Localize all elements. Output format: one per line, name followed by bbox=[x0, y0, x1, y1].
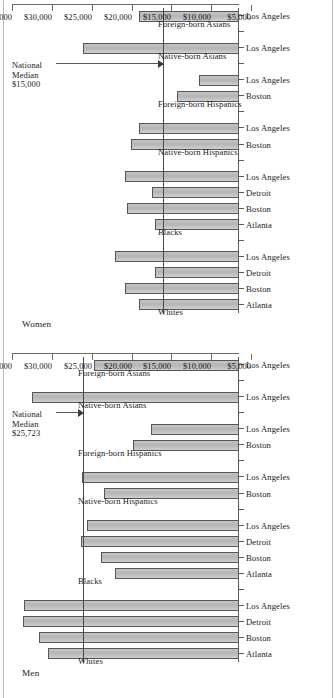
bar-slot bbox=[14, 185, 239, 201]
category-labels-women: AtlantaBostonDetroitLos AngelesAtlantaBo… bbox=[239, 8, 331, 313]
median-annotation-text: National Median $25,723 bbox=[12, 410, 42, 439]
category-label-text: Boston bbox=[246, 633, 271, 643]
category-label: Los Angeles bbox=[239, 169, 331, 185]
value-tick bbox=[171, 5, 172, 11]
category-labels-men: AtlantaBostonDetroitLos AngelesAtlantaBo… bbox=[239, 357, 331, 662]
category-label: Los Angeles bbox=[239, 389, 331, 405]
value-tick bbox=[92, 354, 93, 360]
bar-slot bbox=[14, 550, 239, 566]
value-tick-label: $35,000 bbox=[0, 362, 12, 371]
value-tick-label: $5,000 bbox=[227, 362, 251, 371]
category-label-text: Boston bbox=[246, 140, 271, 150]
value-tick-label: $20,000 bbox=[104, 362, 132, 371]
category-label: Atlanta bbox=[239, 217, 331, 233]
category-axis-line-men bbox=[238, 357, 239, 662]
category-label-text: Los Angeles bbox=[246, 472, 290, 482]
category-label-text: Los Angeles bbox=[246, 521, 290, 531]
bar[interactable] bbox=[115, 251, 239, 262]
category-label: Boston bbox=[239, 88, 331, 104]
bar[interactable] bbox=[82, 472, 240, 483]
bar[interactable] bbox=[127, 203, 240, 214]
bar[interactable] bbox=[24, 600, 239, 611]
category-label-text: Detroit bbox=[246, 268, 271, 278]
group-label: Whites bbox=[78, 656, 103, 666]
value-tick-label: $10,000 bbox=[183, 13, 211, 22]
category-label-text: Atlanta bbox=[246, 220, 272, 230]
bar-slot bbox=[14, 469, 239, 485]
category-label: Boston bbox=[239, 437, 331, 453]
category-label: Boston bbox=[239, 136, 331, 152]
category-axis-line-women bbox=[238, 8, 239, 313]
bar-slot bbox=[14, 169, 239, 185]
bar-slot bbox=[14, 646, 239, 662]
bar-slot bbox=[14, 630, 239, 646]
plot-stage-women: AtlantaBostonDetroitLos AngelesAtlantaBo… bbox=[0, 0, 335, 349]
bar[interactable] bbox=[125, 171, 239, 182]
category-label-spacer bbox=[239, 233, 331, 249]
bar[interactable] bbox=[115, 568, 240, 579]
group-gap bbox=[14, 582, 239, 598]
bar[interactable] bbox=[101, 552, 239, 563]
bar[interactable] bbox=[39, 632, 239, 643]
bar[interactable] bbox=[151, 424, 240, 435]
category-label-text: Boston bbox=[246, 91, 271, 101]
panel-title-men: Men bbox=[22, 668, 39, 678]
category-label-text: Boston bbox=[246, 489, 271, 499]
value-axis-men: $5,000$10,000$15,000$20,000$25,000$30,00… bbox=[12, 353, 239, 354]
category-label: Detroit bbox=[239, 534, 331, 550]
category-label-text: Los Angeles bbox=[246, 252, 290, 262]
category-label-text: Los Angeles bbox=[246, 392, 290, 402]
bar-slot bbox=[14, 614, 239, 630]
category-label-spacer bbox=[239, 373, 331, 389]
bar-slot bbox=[14, 518, 239, 534]
bar[interactable] bbox=[48, 648, 239, 659]
category-label: Los Angeles bbox=[239, 357, 331, 373]
category-label-text: Los Angeles bbox=[246, 11, 290, 21]
value-tick-label: $25,000 bbox=[64, 362, 92, 371]
category-label: Los Angeles bbox=[239, 120, 331, 136]
bar[interactable] bbox=[125, 283, 239, 294]
group-gap bbox=[14, 233, 239, 249]
category-label: Detroit bbox=[239, 185, 331, 201]
bar[interactable] bbox=[152, 187, 239, 198]
bar-slot bbox=[14, 217, 239, 233]
value-tick bbox=[132, 354, 133, 360]
bar[interactable] bbox=[87, 520, 239, 531]
group-label: Whites bbox=[158, 307, 183, 317]
group-label: Native-born Asians bbox=[78, 400, 146, 410]
category-label-text: Los Angeles bbox=[246, 172, 290, 182]
category-label-spacer bbox=[239, 405, 331, 421]
bar[interactable] bbox=[81, 536, 239, 547]
category-label-spacer bbox=[239, 582, 331, 598]
category-label-spacer bbox=[239, 24, 331, 40]
category-label: Los Angeles bbox=[239, 421, 331, 437]
category-label-text: Atlanta bbox=[246, 649, 272, 659]
value-tick-label: $10,000 bbox=[183, 362, 211, 371]
category-label: Boston bbox=[239, 630, 331, 646]
value-tick bbox=[251, 5, 252, 11]
category-label-text: Boston bbox=[246, 284, 271, 294]
category-label: Boston bbox=[239, 550, 331, 566]
value-tick-label: $15,000 bbox=[143, 362, 171, 371]
panel-title-women: Women bbox=[22, 319, 51, 329]
bar[interactable] bbox=[23, 616, 239, 627]
category-label-text: Los Angeles bbox=[246, 43, 290, 53]
bar[interactable] bbox=[155, 267, 239, 278]
category-label: Detroit bbox=[239, 265, 331, 281]
category-label-text: Los Angeles bbox=[246, 75, 290, 85]
bar[interactable] bbox=[139, 299, 240, 310]
category-label: Boston bbox=[239, 485, 331, 501]
category-label-spacer bbox=[239, 502, 331, 518]
bar[interactable] bbox=[139, 123, 240, 134]
bar-slot bbox=[14, 598, 239, 614]
bar-slot bbox=[14, 201, 239, 217]
category-label-text: Detroit bbox=[246, 537, 271, 547]
value-tick bbox=[92, 5, 93, 11]
category-label: Los Angeles bbox=[239, 40, 331, 56]
group-label: Foreign-born Hispanics bbox=[158, 99, 242, 109]
group-label: Blacks bbox=[158, 227, 182, 237]
value-tick bbox=[211, 354, 212, 360]
bar-slot bbox=[14, 249, 239, 265]
category-label-text: Los Angeles bbox=[246, 360, 290, 370]
bar[interactable] bbox=[199, 75, 240, 86]
